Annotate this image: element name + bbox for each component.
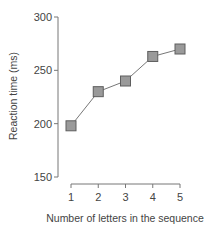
x-tick-label: 3 xyxy=(122,191,128,203)
plot-area xyxy=(66,44,185,131)
y-axis: 150200250300 xyxy=(34,11,58,183)
line-chart: 150200250300 12345 Reaction time (ms) Nu… xyxy=(0,0,207,232)
data-point-marker xyxy=(121,76,131,86)
y-tick-label: 200 xyxy=(34,118,52,130)
x-tick-label: 5 xyxy=(177,191,183,203)
x-tick-label: 1 xyxy=(68,191,74,203)
x-tick-label: 4 xyxy=(150,191,156,203)
y-tick-label: 150 xyxy=(34,171,52,183)
data-point-marker xyxy=(66,121,76,131)
series-line xyxy=(71,49,180,126)
x-axis: 12345 xyxy=(68,184,183,203)
y-tick-label: 300 xyxy=(34,11,52,23)
x-axis-title: Number of letters in the sequence xyxy=(46,212,204,224)
data-point-marker xyxy=(175,44,185,54)
y-axis-title: Reaction time (ms) xyxy=(7,52,19,140)
data-point-marker xyxy=(93,87,103,97)
y-tick-label: 250 xyxy=(34,64,52,76)
x-tick-label: 2 xyxy=(95,191,101,203)
data-point-marker xyxy=(148,51,158,61)
